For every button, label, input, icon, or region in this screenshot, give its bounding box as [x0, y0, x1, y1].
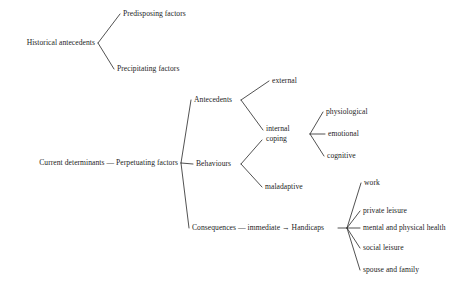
tree-edge [181, 163, 193, 164]
tree-edge [347, 228, 360, 270]
tree-node-mental-physical-health: mental and physical health [363, 223, 445, 232]
tree-edge [241, 140, 262, 164]
tree-node-antecedents: Antecedents [194, 95, 232, 104]
tree-node-current-determinants: Current determinants — Perpetuating fact… [39, 158, 178, 167]
tree-edge [241, 100, 263, 130]
tree-node-cognitive: cognitive [327, 151, 356, 160]
tree-node-emotional: emotional [328, 129, 359, 138]
tree-diagram: Historical antecedentsPredisposing facto… [0, 0, 470, 291]
tree-edge [181, 100, 191, 163]
tree-node-behaviours: Behaviours [196, 159, 231, 168]
tree-node-precipitating-factors: Precipitating factors [117, 64, 179, 73]
tree-node-consequences: Consequences — immediate → Handicaps [192, 223, 324, 232]
tree-edge [98, 43, 114, 69]
tree-node-private-leisure: private leisure [363, 206, 407, 215]
tree-edge [347, 228, 360, 248]
tree-edge [347, 211, 360, 228]
tree-edge [241, 164, 262, 187]
tree-edge [241, 81, 269, 100]
tree-node-social-leisure: social leisure [363, 243, 404, 252]
tree-edge [310, 134, 324, 156]
tree-edge [98, 14, 120, 43]
tree-edge [310, 112, 323, 134]
tree-node-internal-coping: internal coping [266, 124, 290, 145]
tree-edge [181, 163, 189, 228]
tree-edge [347, 183, 361, 228]
tree-node-work: work [364, 178, 380, 187]
tree-node-external: external [272, 76, 297, 85]
tree-node-historical-antecedents: Historical antecedents [27, 38, 95, 47]
tree-node-spouse-and-family: spouse and family [363, 265, 419, 274]
tree-node-predisposing-factors: Predisposing factors [123, 9, 186, 18]
tree-node-physiological: physiological [326, 107, 368, 116]
tree-node-maladaptive: maladaptive [265, 182, 303, 191]
